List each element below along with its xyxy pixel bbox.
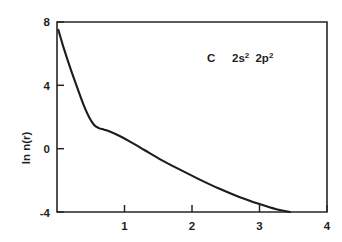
x-tick-label-2: 3 [256,220,262,232]
annotation-config: 2s2 2p2 [232,51,274,64]
plot-frame [57,22,327,212]
chart-plot: 8 4 0 -4 1 2 3 4 ln n(r) C 2s2 2p2 [0,0,342,242]
y-tick-label-1: 4 [44,80,51,92]
x-tick-label-0: 1 [121,220,128,232]
figure-container: 8 4 0 -4 1 2 3 4 ln n(r) C 2s2 2p2 [0,0,342,242]
annotation-element: C [207,52,215,64]
annotation-term-1-shell: 2p [255,52,268,64]
x-tick-label-1: 2 [189,220,195,232]
y-axis-label-text: ln n(r) [20,132,32,165]
x-tick-label-3: 4 [324,220,331,232]
y-axis-ticks [57,22,64,212]
annotation-element-configuration: C 2s2 2p2 [207,51,274,64]
y-tick-label-2: 0 [44,143,50,155]
y-tick-labels: 8 4 0 -4 [40,16,51,219]
x-tick-labels: 1 2 3 4 [121,220,331,232]
annotation-term-0-shell: 2s [232,52,245,64]
y-tick-label-0: 8 [44,16,51,28]
annotation-element-symbol: C [207,52,215,64]
frame-box [57,22,327,212]
y-axis-label: ln n(r) [20,132,32,165]
y-tick-label-3: -4 [40,207,51,219]
x-axis-ticks [125,205,328,212]
annotation-term-1-exponent: 2 [269,51,274,60]
